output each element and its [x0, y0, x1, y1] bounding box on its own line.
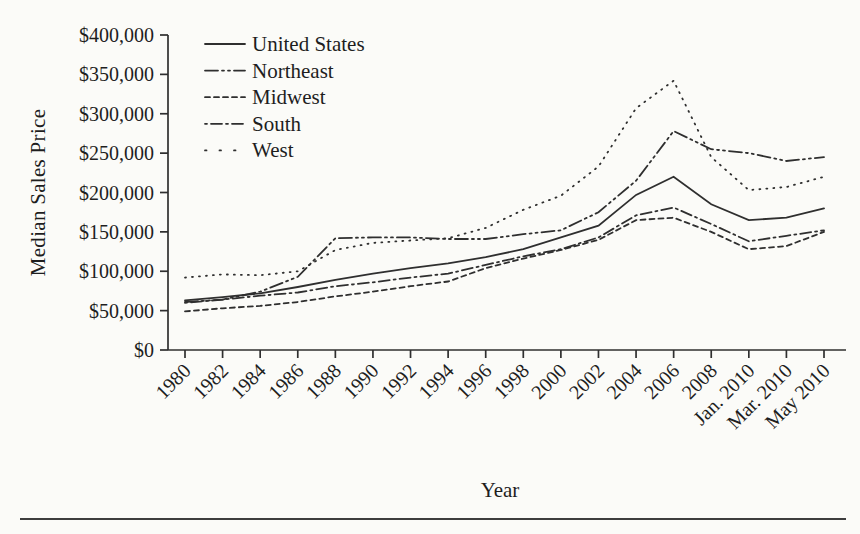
- y-tick-label: $100,000: [79, 260, 154, 282]
- x-tick-label: 1982: [189, 359, 233, 403]
- legend-item-west: West: [205, 138, 294, 162]
- y-tick-label: $350,000: [79, 63, 154, 85]
- legend-item-south: South: [205, 112, 302, 136]
- legend-label: Northeast: [252, 59, 334, 83]
- y-tick-label: $200,000: [79, 182, 154, 204]
- x-tick-label: 1990: [339, 359, 383, 403]
- y-axis-ticks: $0$50,000$100,000$150,000$200,000$250,00…: [79, 24, 168, 361]
- x-tick-label: 1992: [377, 359, 421, 403]
- x-tick-label: 2006: [640, 359, 684, 403]
- legend-item-midwest: Midwest: [205, 85, 326, 109]
- x-tick-label: 1998: [489, 359, 533, 403]
- x-tick-label: 1988: [301, 359, 345, 403]
- legend-label: West: [252, 138, 294, 162]
- y-tick-label: $400,000: [79, 24, 154, 46]
- y-tick-label: $250,000: [79, 142, 154, 164]
- x-tick-label: 2002: [564, 359, 608, 403]
- book-page: Median Sales Price $0$50,000$100,000$150…: [0, 0, 860, 534]
- legend: United StatesNortheastMidwestSouthWest: [205, 32, 365, 162]
- series-line-south: [185, 208, 824, 303]
- x-axis-ticks: 1980198219841986198819901992199419961998…: [151, 350, 835, 433]
- legend-item-northeast: Northeast: [205, 59, 334, 83]
- page-divider: [20, 518, 846, 520]
- x-tick-label: 1986: [264, 359, 308, 403]
- x-tick-label: 1980: [151, 359, 195, 403]
- y-tick-label: $150,000: [79, 221, 154, 243]
- series-line-west: [185, 81, 824, 278]
- y-tick-label: $0: [134, 339, 154, 361]
- x-tick-label: 1994: [414, 359, 458, 403]
- x-axis-title: Year: [400, 478, 600, 503]
- x-tick-label: 2004: [602, 359, 646, 403]
- y-tick-label: $50,000: [89, 300, 154, 322]
- series-line-united-states: [185, 177, 824, 301]
- median-sales-price-line-chart: $0$50,000$100,000$150,000$200,000$250,00…: [0, 0, 860, 534]
- legend-label: United States: [252, 32, 365, 56]
- y-tick-label: $300,000: [79, 103, 154, 125]
- x-tick-label: 1984: [226, 359, 270, 403]
- legend-label: South: [252, 112, 302, 136]
- x-tick-label: 1996: [452, 359, 496, 403]
- legend-item-united-states: United States: [205, 32, 365, 56]
- y-axis-title: Median Sales Price: [26, 93, 51, 293]
- legend-label: Midwest: [252, 85, 326, 109]
- x-tick-label: 2000: [527, 359, 571, 403]
